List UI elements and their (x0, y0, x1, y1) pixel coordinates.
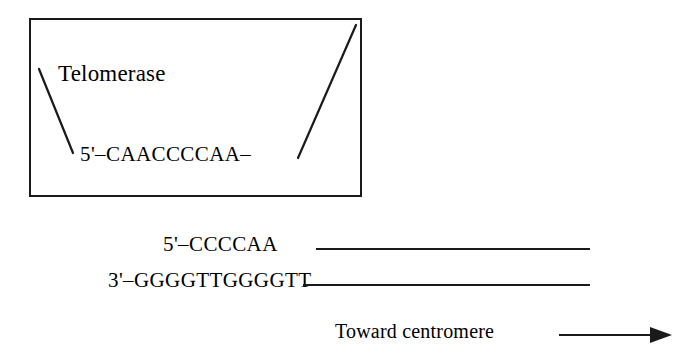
dna-bottom-strand-label: 3'–GGGGTTGGGGTT (108, 268, 311, 292)
dna-top-strand-label: 5'–CCCCAA (163, 232, 278, 256)
dna-top-strand-line (316, 248, 590, 250)
right-arrow-icon (558, 324, 673, 346)
telomerase-rna-template-sequence: 5'–CAACCCCAA– (80, 142, 251, 167)
telomerase-label: Telomerase (58, 60, 166, 88)
telomerase-enzyme-box (29, 18, 362, 197)
dna-bottom-strand-line (303, 284, 590, 286)
telomerase-diagram: Telomerase 5'–CAACCCCAA– 5'–CCCCAA 3'–GG… (0, 0, 683, 360)
direction-caption: Toward centromere (335, 319, 494, 343)
